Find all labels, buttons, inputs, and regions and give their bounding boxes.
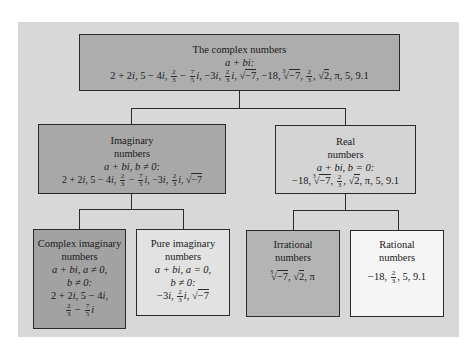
node-complex-imaginary-numbers: Complex imaginary numbers a + bi, a ≠ 0,… xyxy=(33,229,126,329)
node-condition: a + bi, b ≠ 0: xyxy=(39,160,225,173)
node-examples: −18, 3√−7, 23, √2, π, 5, 9.1 xyxy=(276,174,415,189)
node-title: Real xyxy=(276,135,415,148)
node-title: Imaginary xyxy=(39,134,225,147)
connector-to-pure-imaginary xyxy=(183,209,184,229)
node-irrational-numbers: Irrational numbers 3√−7, √2, π xyxy=(246,230,340,317)
connector-imaginary-horizontal xyxy=(79,209,184,210)
connector-root-vertical xyxy=(239,90,240,108)
node-title: numbers xyxy=(247,251,339,264)
node-condition: a + bi, b = 0: xyxy=(276,161,415,174)
connector-to-real xyxy=(345,108,346,125)
node-examples: 2 + 2i, 5 − 4i, 23 − 75i, −3i, 23i, √−7,… xyxy=(80,69,399,84)
node-title: Pure imaginary xyxy=(137,237,229,250)
node-title: numbers xyxy=(39,147,225,160)
connector-to-imaginary xyxy=(131,108,132,124)
node-title: numbers xyxy=(351,251,443,264)
node-pure-imaginary-numbers: Pure imaginary numbers a + bi, a = 0, b … xyxy=(136,229,230,316)
connector-imaginary-vertical xyxy=(131,193,132,209)
node-condition: b ≠ 0: xyxy=(34,276,125,289)
connector-to-complex-imaginary xyxy=(79,209,80,229)
node-imaginary-numbers: Imaginary numbers a + bi, b ≠ 0: 2 + 2i,… xyxy=(38,124,226,194)
node-title: The complex numbers xyxy=(80,43,399,56)
node-examples: −3i, 23i, √−7 xyxy=(137,289,229,304)
node-examples: 2 + 2i, 5 − 4i, xyxy=(34,289,125,302)
node-examples: −18, 23, 5, 9.1 xyxy=(351,270,443,285)
node-condition: a + bi, a = 0, xyxy=(137,263,229,276)
connector-real-horizontal xyxy=(293,210,399,211)
node-title: Complex imaginary xyxy=(34,237,125,250)
node-examples: 2 + 2i, 5 − 4i, 23 − 75i, −3i, 23i, √−7 xyxy=(39,173,225,188)
connector-root-horizontal xyxy=(131,108,346,109)
node-examples: 3√−7, √2, π xyxy=(247,270,339,283)
node-rational-numbers: Rational numbers −18, 23, 5, 9.1 xyxy=(350,230,444,317)
node-examples: 23 − 75i xyxy=(34,303,125,318)
node-title: numbers xyxy=(137,250,229,263)
node-complex-numbers: The complex numbers a + bi: 2 + 2i, 5 − … xyxy=(79,34,400,91)
connector-to-rational xyxy=(398,210,399,230)
node-condition: a + bi: xyxy=(80,56,399,69)
node-title: Rational xyxy=(351,238,443,251)
node-real-numbers: Real numbers a + bi, b = 0: −18, 3√−7, 2… xyxy=(275,125,416,194)
connector-to-irrational xyxy=(293,210,294,230)
node-title: numbers xyxy=(34,250,125,263)
node-title: Irrational xyxy=(247,238,339,251)
node-condition: a + bi, a ≠ 0, xyxy=(34,263,125,276)
node-title: numbers xyxy=(276,148,415,161)
connector-real-vertical xyxy=(345,193,346,210)
node-condition: b ≠ 0: xyxy=(137,276,229,289)
